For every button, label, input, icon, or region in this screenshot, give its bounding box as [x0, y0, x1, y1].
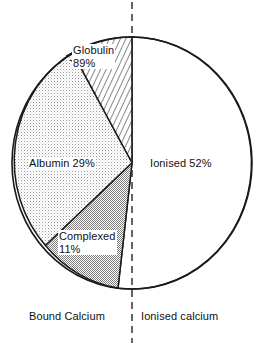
slice-label-globulin: Globulin 89% — [72, 44, 115, 69]
calcium-distribution-pie-chart — [0, 0, 262, 345]
slice-label-complexed-name: Complexed — [59, 230, 116, 242]
slice-label-complexed-value: 11% — [59, 243, 116, 256]
axis-label-ionised-calcium: Ionised calcium — [141, 310, 218, 323]
pie-chart-figure: Ionised 52% Albumin 29% Globulin 89% Com… — [0, 0, 262, 345]
axis-label-bound-calcium: Bound Calcium — [29, 310, 105, 323]
slice-label-ionised: Ionised 52% — [150, 157, 212, 170]
slice-label-globulin-value: 89% — [73, 57, 114, 70]
slice-label-complexed: Complexed 11% — [58, 230, 117, 255]
slice-label-albumin: Albumin 29% — [28, 157, 96, 170]
slice-label-globulin-name: Globulin — [73, 44, 114, 56]
